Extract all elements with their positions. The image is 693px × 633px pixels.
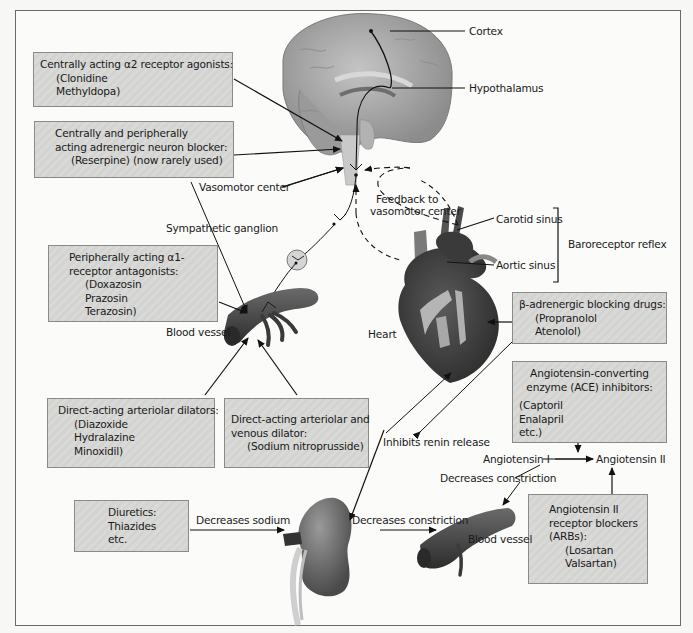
drug-name: Minoxidil) xyxy=(58,445,208,459)
label-sympathetic-ganglion: Sympathetic ganglion xyxy=(166,222,278,235)
box-title: Peripherally acting α1- xyxy=(69,251,211,265)
box-title: β-adrenergic blocking drugs: xyxy=(519,298,660,312)
label-hypothalamus: Hypothalamus xyxy=(469,82,543,95)
drug-name: (Propranolol xyxy=(519,312,660,326)
box-title: Angiotensin-converting xyxy=(519,367,660,381)
label-angiotensin-1: Angiotensin I xyxy=(483,453,550,466)
drug-name: Thiazides xyxy=(108,520,182,534)
box-title: enzyme (ACE) inhibitors: xyxy=(519,381,660,395)
box-title: Centrally and peripherally xyxy=(55,127,227,141)
label-blood-vessel-lower: Blood vessel xyxy=(468,533,532,546)
drug-name: Hydralazine xyxy=(58,431,208,445)
drug-name: (Captoril xyxy=(519,399,660,413)
box-title: (ARBs): xyxy=(549,530,641,544)
label-inhibits-renin-release: Inhibits renin release xyxy=(383,436,490,449)
brain-illustration xyxy=(283,13,452,185)
box-title: Direct-acting arteriolar and xyxy=(231,413,362,427)
drug-box-arteriolar-dilators: Direct-acting arteriolar dilators: (Diaz… xyxy=(47,398,215,468)
label-aortic-sinus: Aortic sinus xyxy=(496,259,555,272)
label-decreases-constriction-lower: Decreases constriction xyxy=(352,514,468,527)
drug-name: (Diazoxide xyxy=(58,418,208,432)
label-angiotensin-2: Angiotensin II xyxy=(596,453,666,466)
drug-name: Terazosin) xyxy=(69,305,211,319)
label-feedback-line2: vasomotor center xyxy=(370,205,461,218)
drug-name: (Reserpine) (now rarely used) xyxy=(55,154,227,168)
drug-box-neuron-blocker: Centrally and peripherally acting adrene… xyxy=(34,121,234,178)
label-decreases-constriction-upper: Decreases constriction xyxy=(440,472,556,485)
box-title: Diuretics: xyxy=(108,506,182,520)
label-vasomotor-center: Vasomotor center xyxy=(199,181,290,194)
label-cortex: Cortex xyxy=(469,25,503,38)
label-carotid-sinus: Carotid sinus xyxy=(496,213,563,226)
label-baroreceptor-reflex: Baroreceptor reflex xyxy=(568,238,667,251)
drug-name: Methyldopa) xyxy=(40,85,226,99)
drug-name: (Clonidine xyxy=(40,72,226,86)
drug-name: Atenolol) xyxy=(519,325,660,339)
drug-name: Prazosin xyxy=(69,292,211,306)
label-blood-vessel-upper: Blood vessel xyxy=(166,326,230,339)
drug-box-diuretics: Diuretics: Thiazides etc. xyxy=(74,500,189,552)
heart-illustration xyxy=(398,206,498,383)
drug-box-arbs: Angiotensin II receptor blockers (ARBs):… xyxy=(528,494,648,584)
box-title: Direct-acting arteriolar dilators: xyxy=(58,404,208,418)
drug-box-alpha2-agonists: Centrally acting α2 receptor agonists: (… xyxy=(33,52,233,107)
drug-name: etc.) xyxy=(519,426,660,440)
label-decreases-sodium: Decreases sodium xyxy=(196,514,290,527)
drug-box-ace-inhibitors: Angiotensin-converting enzyme (ACE) inhi… xyxy=(512,361,667,443)
drug-name: (Losartan xyxy=(549,544,641,558)
kidney-illustration xyxy=(283,498,352,625)
drug-box-alpha1-antagonists: Peripherally acting α1- receptor antagon… xyxy=(48,245,218,322)
box-title: receptor antagonists: xyxy=(69,265,211,279)
drug-box-arteriolar-venous-dilator: Direct-acting arteriolar and venous dila… xyxy=(224,398,369,468)
box-title: receptor blockers xyxy=(549,517,641,531)
drug-box-beta-blockers: β-adrenergic blocking drugs: (Propranolo… xyxy=(512,292,667,344)
drug-name: (Doxazosin xyxy=(69,278,211,292)
drug-name: etc. xyxy=(108,533,182,547)
box-title: acting adrenergic neuron blocker: xyxy=(55,141,227,155)
drug-name: Valsartan) xyxy=(549,557,641,571)
drug-name: Enalapril xyxy=(519,413,660,427)
box-title: Centrally acting α2 receptor agonists: xyxy=(40,58,226,72)
label-heart: Heart xyxy=(368,328,397,341)
box-title: Angiotensin II xyxy=(549,503,641,517)
upper-blood-vessel-illustration xyxy=(224,288,319,346)
drug-name: (Sodium nitroprusside) xyxy=(231,440,362,454)
box-title: venous dilator: xyxy=(231,427,362,441)
